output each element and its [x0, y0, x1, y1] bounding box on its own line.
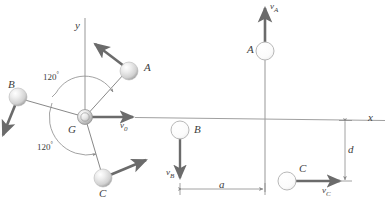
velocity-arrow-particle-c-left: [110, 160, 146, 175]
angle-arc-upper-tail: [52, 93, 56, 97]
physics-figure: y A B C G v0 120° 120° x A vA B vB C vC …: [0, 0, 385, 206]
spoke-to-particle-c: [85, 117, 101, 171]
particle-a-label-right: A: [247, 44, 254, 55]
angle-upper-degree: °: [57, 71, 59, 77]
particle-b-label-left: B: [8, 79, 15, 90]
particle-a-label-left: A: [144, 62, 151, 73]
figure-canvas: [0, 0, 385, 206]
velocity-arrow-particle-b-left: [3, 103, 16, 135]
velocity-v0-subscript: 0: [124, 125, 128, 133]
velocity-vc-label: vC: [322, 186, 331, 198]
sphere-particle-c-right: [278, 172, 296, 190]
velocity-va-subscript: A: [274, 6, 278, 14]
velocity-vb-subscript: B: [170, 172, 174, 180]
velocity-v0-label: v0: [120, 121, 128, 133]
particle-c-label-left: C: [99, 188, 106, 199]
right-x-axis-label: x: [368, 112, 373, 123]
angle-lower-value: 120: [37, 142, 51, 152]
sphere-particle-b-right: [171, 121, 189, 139]
left-y-axis-label: y: [75, 20, 80, 31]
velocity-va-label: vA: [270, 2, 278, 14]
sphere-particle-a-left: [120, 62, 138, 80]
angle-label-upper: 120°: [43, 71, 59, 82]
sphere-particle-c-left: [94, 169, 112, 187]
velocity-vc-subscript: C: [326, 190, 331, 198]
particle-c-label-right: C: [299, 163, 306, 174]
spoke-to-particle-b: [25, 100, 85, 117]
sphere-particle-b-left: [9, 88, 27, 106]
x-axis: [135, 118, 385, 121]
angle-lower-degree: °: [51, 141, 53, 147]
spoke-to-particle-a: [85, 74, 124, 117]
sphere-particle-a-right: [256, 42, 274, 60]
particle-b-label-right: B: [194, 124, 201, 135]
sphere-center-of-mass: [78, 110, 93, 125]
center-of-mass-label: G: [68, 124, 76, 135]
angle-label-lower: 120°: [37, 141, 53, 152]
velocity-arrow-particle-a-left: [95, 44, 124, 66]
angle-upper-value: 120: [43, 72, 57, 82]
velocity-vb-label: vB: [166, 168, 174, 180]
dimension-d-label: d: [348, 144, 354, 155]
dimension-a-label: a: [219, 179, 225, 190]
